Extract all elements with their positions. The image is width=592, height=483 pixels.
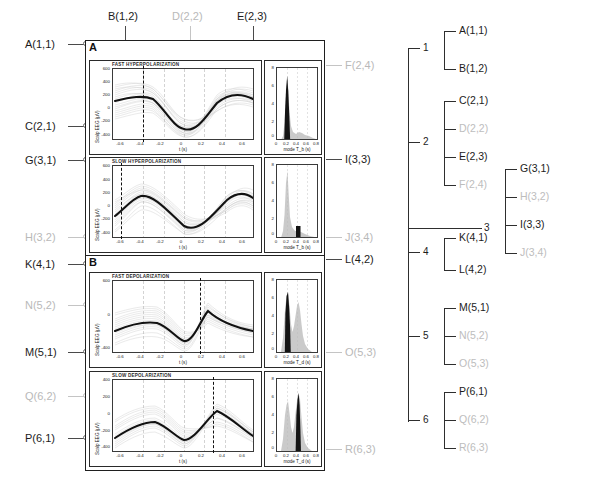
dendro-trunk-lower	[408, 336, 409, 422]
waveform-xtick-1-2: -0.2	[152, 239, 168, 244]
waveform-plot-2	[113, 281, 254, 353]
histogram-ytick-2-1: 2	[266, 331, 274, 336]
waveform-ylabel-0: Scalp EEG (µV)	[95, 110, 100, 143]
node-label-left-2: G(3,1)	[25, 154, 56, 166]
waveform-ytick-1-0: 600	[94, 163, 110, 168]
dendro-leafarm-3-3	[505, 253, 517, 254]
waveform-xlabel-3: t (s)	[163, 459, 203, 464]
histogram-axes-1	[276, 164, 318, 238]
node-label-right-4: O(5,3)	[345, 346, 376, 358]
histogram-xtick-1-0: 0	[271, 239, 281, 244]
node-label-top-0: B(1,2)	[108, 10, 138, 22]
histogram-ytick-3-0: 0	[266, 445, 274, 450]
waveform-ytick-1-4: -200	[94, 216, 110, 221]
leader-left-4	[68, 264, 84, 265]
figure-root: B(1,2) D(2,2) E(2,3) A(1,1) C(2,1) G(3,1…	[0, 0, 592, 483]
dendro-leafarm-5-2	[444, 364, 456, 365]
waveform-xtick-0-1: -0.4	[132, 141, 148, 146]
dendro-leaf-5-1: N(5,2)	[459, 329, 488, 341]
waveform-xtick-2-0: -0.6	[112, 354, 128, 359]
waveform-ytick-0-4: -200	[94, 118, 110, 123]
waveform-ytick-2-2: -400	[94, 345, 110, 350]
waveform-title-3: SLOW DEPOLARIZATION	[112, 373, 171, 378]
dendro-bracket-2	[444, 101, 445, 185]
dendro-leafarm-5-0	[444, 308, 456, 309]
dendro-leaf-1-1: B(1,2)	[459, 62, 488, 74]
histogram-xtick-1-1: 0.2	[281, 239, 291, 244]
histogram-ytick-1-3: 6	[266, 180, 274, 185]
dendro-leafarm-2-1	[444, 129, 456, 130]
waveform-marker-1	[121, 163, 122, 239]
dendro-leafarm-6-2	[444, 448, 456, 449]
histogram-axes-2	[276, 279, 318, 353]
dendro-cluster-number-4: 5	[423, 330, 429, 341]
waveform-xtick-1-6: 0.6	[234, 239, 250, 244]
waveform-xlabel-2: t (s)	[163, 360, 203, 365]
histogram-xtick-0-1: 0.2	[281, 141, 291, 146]
histogram-plot-3	[277, 379, 318, 452]
waveform-xlabel-1: t (s)	[163, 245, 203, 250]
waveform-xtick-3-0: -0.6	[112, 453, 128, 458]
histogram-plot-1	[277, 165, 318, 238]
dendro-leafarm-1-0	[444, 31, 456, 32]
waveform-ytick-0-5: -400	[94, 132, 110, 137]
dendro-leaf-5-2: O(5,3)	[459, 357, 489, 369]
histogram-xlabel-0: mode T_b (s)	[272, 147, 322, 152]
waveform-xtick-0-0: -0.6	[112, 141, 128, 146]
waveform-ytick-2-0: 600	[94, 278, 110, 283]
node-label-left-4: K(4,1)	[25, 258, 55, 270]
waveform-ytick-1-1: 400	[94, 177, 110, 182]
histogram-xtick-2-4: 0.8	[311, 354, 321, 359]
dendro-bracket-1	[444, 31, 445, 70]
histogram-xtick-3-4: 0.8	[311, 453, 321, 458]
dendro-leafarm-6-1	[444, 420, 456, 421]
histogram-ytick-3-1: 2	[266, 430, 274, 435]
dendro-leafarm-2-3	[444, 185, 456, 186]
leader-right-2	[326, 237, 342, 238]
leader-left-5	[68, 305, 84, 306]
histogram-ytick-2-3: 6	[266, 295, 274, 300]
dendro-arm-4	[408, 252, 420, 253]
node-label-top-1: D(2,2)	[172, 10, 203, 22]
dendro-leafarm-3-2	[505, 225, 517, 226]
dendro-arm-2	[408, 142, 420, 143]
histogram-xtick-0-4: 0.8	[311, 141, 321, 146]
waveform-xtick-3-3: 0	[173, 453, 189, 458]
waveform-xtick-2-3: 0	[173, 354, 189, 359]
leader-left-6	[68, 352, 84, 353]
node-label-left-1: C(2,1)	[25, 120, 56, 132]
dendro-leafarm-3-1	[505, 197, 517, 198]
leader-right-5	[326, 449, 342, 450]
waveform-ytick-3-4: -400	[94, 444, 110, 449]
dendro-leaf-6-2: R(6,3)	[459, 441, 488, 453]
waveform-ylabel-2: Scalp EEG (µV)	[95, 323, 100, 356]
waveform-plot-0	[113, 69, 254, 140]
histogram-xtick-0-2: 0.4	[291, 141, 301, 146]
waveform-axes-2	[112, 280, 254, 353]
node-label-left-6: M(5,1)	[25, 346, 57, 358]
waveform-ytick-3-3: -200	[94, 428, 110, 433]
waveform-xtick-2-4: 0.2	[193, 354, 209, 359]
histogram-xtick-0-0: 0	[271, 141, 281, 146]
histogram-xtick-2-2: 0.4	[291, 354, 301, 359]
waveform-xtick-2-1: -0.4	[132, 354, 148, 359]
waveform-xtick-3-1: -0.4	[132, 453, 148, 458]
waveform-xtick-2-6: 0.6	[234, 354, 250, 359]
waveform-xtick-1-5: 0.4	[214, 239, 230, 244]
waveform-ytick-3-0: 400	[94, 377, 110, 382]
node-label-right-1: I(3,3)	[345, 153, 371, 165]
dendro-leafarm-6-0	[444, 392, 456, 393]
dendro-leaf-2-1: D(2,2)	[459, 122, 488, 134]
waveform-xtick-3-6: 0.6	[234, 453, 250, 458]
histogram-highlight-1	[296, 226, 301, 238]
histogram-xtick-2-0: 0	[271, 354, 281, 359]
dendro-leafarm-2-2	[444, 157, 456, 158]
histogram-xtick-0-3: 0.6	[301, 141, 311, 146]
waveform-ytick-0-0: 600	[94, 66, 110, 71]
dendro-bracket-4	[444, 238, 445, 271]
leader-left-3	[68, 237, 84, 238]
waveform-xtick-1-4: 0.2	[193, 239, 209, 244]
waveform-title-0: FAST HYPERPOLARIZATION	[112, 62, 179, 67]
dendro-leafarm-4-0	[444, 238, 456, 239]
histogram-xtick-1-2: 0.4	[291, 239, 301, 244]
